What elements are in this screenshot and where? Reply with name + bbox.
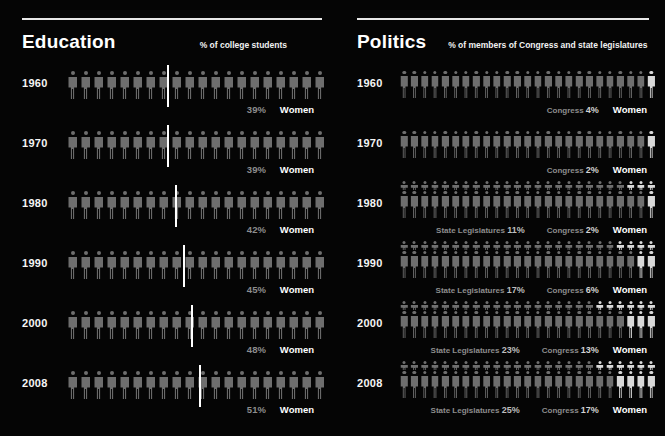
person-body-icon: [81, 137, 90, 159]
person-head-icon: [567, 371, 570, 374]
person-body-icon: [534, 76, 541, 98]
politics-row: 2008State Legislatures 25%Congress 17%Wo…: [357, 363, 649, 423]
education-header: Education % of college students: [22, 32, 322, 54]
person-icon: [105, 371, 118, 401]
person-icon: [502, 301, 512, 310]
person-icon: [595, 191, 605, 221]
person-icon: [420, 241, 430, 250]
person-body-icon: [534, 316, 541, 338]
education-row: 200851%Women: [22, 363, 322, 423]
person-icon: [553, 371, 563, 401]
education-row: 197039%Women: [22, 123, 322, 183]
person-head-icon: [557, 181, 560, 184]
person-body-icon: [400, 136, 407, 158]
person-body-icon: [452, 76, 459, 98]
person-body-icon: [224, 197, 233, 219]
education-women-legend: Women: [280, 164, 314, 175]
person-icon-highlighted: [615, 241, 625, 250]
education-year-label: 1990: [22, 257, 62, 269]
person-head-icon: [475, 181, 478, 184]
politics-caption: Congress 2%Women: [547, 164, 647, 175]
person-icon: [209, 371, 222, 401]
person-head-icon: [434, 241, 437, 244]
person-icon: [605, 311, 615, 341]
person-icon: [543, 241, 553, 250]
person-body-icon: [586, 136, 593, 158]
person-icon: [440, 191, 450, 221]
politics-year-label: 1970: [357, 137, 397, 149]
person-body-icon: [637, 196, 644, 218]
person-body-icon: [575, 136, 582, 158]
person-head-icon: [97, 71, 101, 75]
person-head-icon: [650, 241, 653, 244]
person-body-icon: [596, 136, 603, 158]
person-body-icon: [263, 77, 272, 99]
person-body-icon: [627, 245, 634, 250]
person-body-icon: [421, 365, 428, 370]
person-body-icon: [250, 197, 259, 219]
person-head-icon: [413, 371, 416, 374]
person-icon: [502, 251, 512, 281]
person-body-icon: [263, 137, 272, 159]
person-icon: [553, 241, 563, 250]
person-icon: [543, 181, 553, 190]
infographic-panels: Education % of college students 196039%W…: [0, 0, 665, 436]
person-body-icon: [627, 316, 634, 338]
person-icon: [481, 301, 491, 310]
person-head-icon: [433, 131, 436, 134]
person-icon: [523, 371, 533, 401]
person-icon: [209, 71, 222, 101]
person-body-icon: [400, 376, 407, 398]
person-icon: [543, 361, 553, 370]
person-icon: [471, 131, 481, 161]
person-head-icon: [619, 191, 622, 194]
person-head-icon: [423, 241, 426, 244]
person-body-icon: [237, 197, 246, 219]
person-head-icon: [639, 241, 642, 244]
person-icon: [274, 371, 287, 401]
congress-figure-row: [399, 311, 656, 341]
person-icon: [533, 311, 543, 341]
person-body-icon: [185, 77, 194, 99]
person-icon: [492, 371, 502, 401]
person-head-icon: [516, 181, 519, 184]
person-head-icon: [71, 251, 75, 255]
person-icon: [584, 251, 594, 281]
person-head-icon: [266, 131, 270, 135]
person-body-icon: [473, 305, 480, 310]
person-body-icon: [503, 376, 510, 398]
education-percent-label: 39%: [247, 164, 266, 175]
person-icon: [553, 181, 563, 190]
person-icon: [626, 251, 636, 281]
person-head-icon: [547, 311, 550, 314]
person-body-icon: [483, 185, 490, 190]
person-body-icon: [452, 376, 459, 398]
person-body-icon: [211, 257, 220, 279]
person-icon: [144, 251, 157, 281]
person-body-icon: [637, 76, 644, 98]
person-icon: [584, 71, 594, 101]
person-icon: [409, 311, 419, 341]
person-icon: [533, 241, 543, 250]
person-icon: [313, 251, 326, 281]
person-body-icon: [411, 76, 418, 98]
person-icon: [595, 241, 605, 250]
person-icon: [430, 251, 440, 281]
person-icon: [430, 131, 440, 161]
person-icon: [79, 311, 92, 341]
person-icon: [300, 191, 313, 221]
person-icon: [287, 71, 300, 101]
person-body-icon: [237, 257, 246, 279]
person-icon: [492, 131, 502, 161]
person-head-icon: [619, 371, 622, 374]
person-icon: [584, 361, 594, 370]
person-body-icon: [534, 136, 541, 158]
person-body-icon: [555, 305, 562, 310]
person-head-icon: [526, 241, 529, 244]
person-icon: [574, 371, 584, 401]
person-icon-highlighted: [605, 301, 615, 310]
person-head-icon: [240, 71, 244, 75]
person-icon: [450, 71, 460, 101]
person-head-icon: [547, 241, 550, 244]
person-icon: [300, 71, 313, 101]
